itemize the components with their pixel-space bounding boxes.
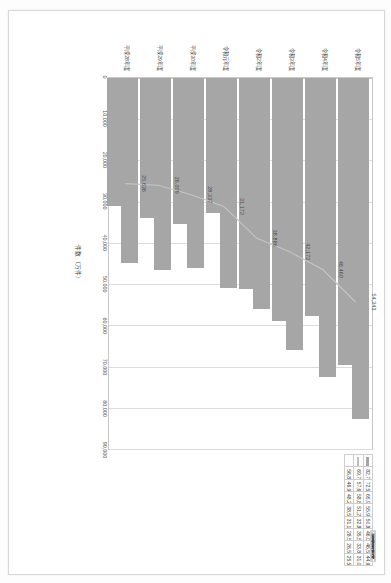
bar	[107, 78, 124, 206]
axis-title-line-1: 件数	[74, 245, 83, 257]
legend-swatch-icon	[347, 457, 350, 466]
bar	[272, 78, 289, 321]
category-label: 平成29年度	[156, 45, 162, 71]
category-label: 令和5年度	[354, 48, 360, 71]
category-label: 平成28年度	[123, 45, 129, 71]
data-label: 26,009	[174, 177, 180, 194]
bar-group	[175, 78, 208, 449]
bar	[239, 78, 256, 289]
data-label: 25,636	[141, 175, 147, 192]
table-cell: 82,711	[363, 467, 372, 479]
axis-tick-label: 60,000	[102, 317, 108, 334]
category-label: 令和4年度	[321, 48, 327, 71]
bar	[140, 78, 157, 218]
table-cell: 31,074	[354, 553, 363, 565]
axis-tick-label: 10,000	[102, 110, 108, 127]
axis-tick-label: 0	[102, 76, 108, 79]
category-axis: 令和5年度令和4年度令和3年度令和2年度令和元年度平成30年度平成29年度平成2…	[110, 15, 373, 75]
bar-group	[208, 78, 241, 449]
axis-title-line-2: （万件）	[74, 258, 83, 282]
value-axis: 010,00020,00030,00040,00050,00060,00070,…	[82, 77, 108, 450]
paper-sheet: 令和5年度令和4年度令和3年度令和2年度令和元年度平成30年度平成29年度平成2…	[8, 10, 385, 575]
table-cell: 58,884	[354, 491, 363, 503]
bar-group	[241, 78, 274, 449]
data-table: 令和5年度令和4年度令和3年度令和2年度令和元年度平成30年度平成29年度平成2…	[62, 454, 373, 566]
table-cell: 31,113	[345, 516, 354, 528]
table-cell: 56,845	[345, 467, 354, 479]
data-label: 38,886	[272, 230, 278, 247]
bar-group	[109, 78, 142, 449]
axis-tick-label: 40,000	[102, 235, 108, 252]
table-cell: 35,502	[354, 528, 363, 540]
table-cell: 69,724	[354, 467, 363, 479]
table-cell: 46,940	[345, 479, 354, 491]
table-cell: 38,535	[345, 504, 354, 516]
data-label: 54,343	[371, 293, 377, 310]
table-body: 件数82,71172,50065,93555,98650,87646,08946…	[345, 455, 373, 566]
table-cell: 50,876	[363, 516, 372, 528]
table-cell: 26,535	[345, 541, 354, 553]
table-row: うち未処理56,84546,94048,24338,53531,11328,50…	[345, 455, 354, 566]
data-table-grid: 令和5年度令和4年度令和3年度令和2年度令和元年度平成30年度平成29年度平成2…	[344, 454, 373, 566]
table-row: うち処理済69,72457,64058,88451,20232,87035,50…	[354, 455, 363, 566]
table-cell: 25,568	[345, 553, 354, 565]
gridline	[109, 449, 372, 450]
bar-group	[273, 78, 306, 449]
axis-tick-label: 30,000	[102, 193, 108, 210]
category-label: 令和2年度	[255, 48, 261, 71]
axis-tick-label: 20,000	[102, 152, 108, 169]
chart-figure: 令和5年度令和4年度令和3年度令和2年度令和元年度平成30年度平成29年度平成2…	[14, 15, 379, 570]
legend-entry: うち未処理	[345, 455, 354, 467]
bar	[338, 78, 355, 365]
data-label: 46,460	[338, 261, 344, 278]
table-cell: 65,935	[363, 491, 372, 503]
table-cell: 32,870	[354, 516, 363, 528]
bar-group	[306, 78, 339, 449]
legend-swatch-icon	[366, 457, 369, 466]
table-cell: 55,986	[363, 504, 372, 516]
category-label: 令和元年度	[222, 46, 228, 71]
table-header-row: 令和5年度令和4年度令和3年度令和2年度令和元年度平成30年度平成29年度平成2…	[373, 455, 374, 566]
table-cell: 51,202	[354, 504, 363, 516]
bar	[305, 78, 322, 316]
plot-area: 54,34346,46042,17238,88631,17228,33726,0…	[108, 77, 373, 450]
legend-entry: うち処理済	[354, 455, 363, 467]
axis-tick-label: 70,000	[102, 359, 108, 376]
table-cell: 28,507	[345, 528, 354, 540]
table-cell: 48,243	[345, 491, 354, 503]
category-label: 平成30年度	[189, 45, 195, 71]
data-label: 31,172	[239, 198, 245, 215]
table-cell: 72,500	[363, 479, 372, 491]
bar-series-layer	[109, 78, 372, 449]
legend-entry: 件数	[363, 455, 372, 467]
scanned-page: 令和5年度令和4年度令和3年度令和2年度令和元年度平成30年度平成29年度平成2…	[0, 0, 391, 583]
axis-tick-label: 80,000	[102, 400, 108, 417]
data-label: 28,337	[207, 186, 213, 203]
data-label: 42,172	[305, 243, 311, 260]
axis-title: 件数 （万件）	[74, 77, 83, 450]
table-cell: 57,640	[354, 479, 363, 491]
legend-swatch-icon	[357, 457, 359, 466]
table-cell: 33,869	[354, 541, 363, 553]
rotated-figure-stage: 令和5年度令和4年度令和3年度令和2年度令和元年度平成30年度平成29年度平成2…	[14, 15, 379, 570]
bar	[173, 78, 190, 224]
category-label: 令和3年度	[288, 48, 294, 71]
axis-tick-label: 50,000	[102, 276, 108, 293]
bar-group	[142, 78, 175, 449]
table-column-header: 平成28年度	[371, 530, 376, 562]
